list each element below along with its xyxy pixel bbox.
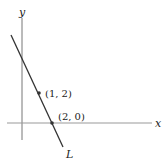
coordinate-plane: y x L (1, 2) (2, 0) [0, 0, 164, 162]
point-2-0-label: (2, 0) [58, 111, 85, 122]
point-1-2-label: (1, 2) [45, 88, 72, 99]
x-axis-label: x [155, 117, 162, 130]
point-1-2 [37, 91, 41, 95]
line-l-label: L [65, 148, 73, 161]
point-2-0 [50, 121, 54, 125]
y-axis-label: y [18, 6, 26, 19]
